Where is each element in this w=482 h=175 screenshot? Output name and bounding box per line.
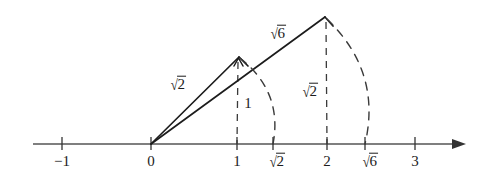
tick-label-minus1: −1 xyxy=(54,154,70,169)
leg-sqrt2-label: √2 xyxy=(302,83,318,99)
figure-root: −1 0 1 √2 2 √6 3 √2 √6 1 √2 xyxy=(0,0,482,175)
leg-sqrt2-radicand: 2 xyxy=(309,83,318,99)
tick-label-2-text: 2 xyxy=(323,153,331,169)
leg-sqrt2-dashed xyxy=(326,22,327,144)
tick-label-3-text: 3 xyxy=(411,153,419,169)
segment-origin-to-sqrt2-apex xyxy=(151,57,239,144)
leg-one-dashed xyxy=(237,62,238,144)
radical-sqrt6-tick: √6 xyxy=(362,153,378,169)
hypotenuse-sqrt6-radicand: 6 xyxy=(277,25,286,41)
tick-label-minus1-text: −1 xyxy=(54,153,70,169)
triangle-sqrt2 xyxy=(151,57,248,144)
radical-sqrt2-leg: √2 xyxy=(302,83,318,99)
tick-label-1: 1 xyxy=(233,154,241,169)
tick-label-sqrt6-radicand: 6 xyxy=(369,153,378,169)
axis-arrowhead xyxy=(452,139,466,149)
tick-label-0-text: 0 xyxy=(147,153,155,169)
tick-label-sqrt2-radicand: 2 xyxy=(276,153,285,169)
arc-sqrt6 xyxy=(327,19,369,144)
figure-canvas xyxy=(0,0,482,175)
hypotenuse-sqrt6-label: √6 xyxy=(270,25,286,41)
tick-label-sqrt2: √2 xyxy=(269,153,285,169)
hypotenuse-sqrt2-label: √2 xyxy=(170,76,186,92)
radical-sqrt2-tick: √2 xyxy=(269,153,285,169)
hypotenuse-sqrt2-radicand: 2 xyxy=(177,76,186,92)
tick-label-1-text: 1 xyxy=(233,153,241,169)
leg-one-label: 1 xyxy=(244,96,252,111)
leg-one-label-text: 1 xyxy=(244,95,252,111)
tick-label-2: 2 xyxy=(323,154,331,169)
tick-label-0: 0 xyxy=(147,154,155,169)
tick-label-sqrt6: √6 xyxy=(362,153,378,169)
radical-sqrt6-hypotenuse: √6 xyxy=(270,25,286,41)
number-line-axis xyxy=(33,139,466,149)
radical-sqrt2-hypotenuse: √2 xyxy=(170,76,186,92)
tick-label-3: 3 xyxy=(411,154,419,169)
